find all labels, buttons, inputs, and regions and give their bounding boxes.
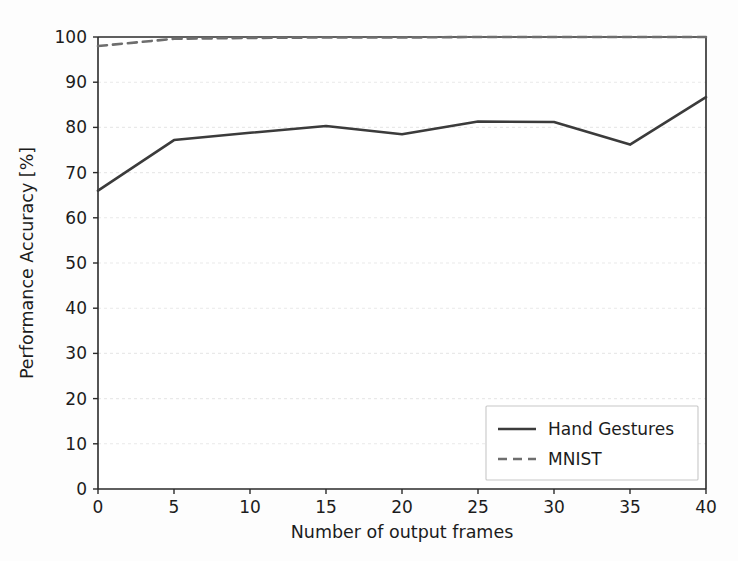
figure-canvas: 0102030405060708090100 0510152025303540 …: [0, 0, 738, 561]
y-tick-label: 10: [65, 434, 87, 454]
y-tick-label: 80: [65, 117, 87, 137]
y-tick-label: 30: [65, 343, 87, 363]
y-tick-label: 60: [65, 208, 87, 228]
x-tick-label: 5: [169, 497, 180, 517]
y-tick-label: 20: [65, 389, 87, 409]
x-tick-label: 0: [93, 497, 104, 517]
x-tick-label: 10: [239, 497, 261, 517]
x-tick-label: 35: [619, 497, 641, 517]
legend-label-hand-gestures: Hand Gestures: [548, 419, 674, 439]
legend-label-mnist: MNIST: [548, 449, 602, 469]
y-axis-title: Performance Accuracy [%]: [17, 147, 37, 379]
y-tick-label: 40: [65, 298, 87, 318]
y-tick-label: 70: [65, 163, 87, 183]
legend[interactable]: Hand GesturesMNIST: [486, 406, 698, 480]
x-tick-label: 30: [543, 497, 565, 517]
x-tick-label: 40: [695, 497, 717, 517]
x-axis-title: Number of output frames: [291, 522, 514, 542]
x-tick-label: 15: [315, 497, 337, 517]
y-tick-label: 100: [55, 27, 87, 47]
y-tick-label: 50: [65, 253, 87, 273]
y-tick-label: 90: [65, 72, 87, 92]
x-tick-label: 20: [391, 497, 413, 517]
y-tick-label: 0: [76, 479, 87, 499]
line-chart: 0102030405060708090100 0510152025303540 …: [0, 0, 738, 561]
x-tick-label: 25: [467, 497, 489, 517]
